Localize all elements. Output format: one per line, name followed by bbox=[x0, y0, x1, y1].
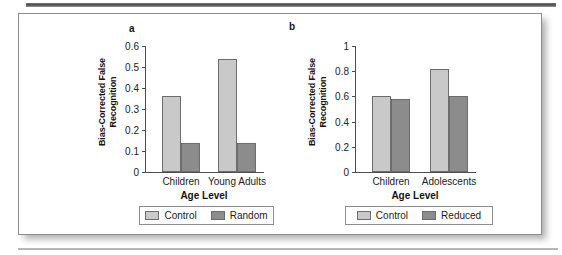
panel-a-legend-label-control: Control bbox=[164, 210, 196, 221]
panel-a-legend: Control Random bbox=[139, 206, 274, 225]
panel-a-tick-label-0: 0 bbox=[133, 167, 139, 178]
panel-b-legend-item-reduced: Reduced bbox=[422, 210, 481, 221]
panel-b-tick-0 bbox=[352, 172, 356, 173]
panel-b-bars bbox=[356, 46, 476, 172]
bar-b-adolescents-reduced bbox=[449, 96, 468, 172]
panel-a-tick-0 bbox=[142, 172, 146, 173]
panel-a-plot-area: 0.6 0.5 0.4 0.3 0.2 0.1 0 Ch bbox=[145, 46, 264, 173]
panel-a-legend-label-random: Random bbox=[230, 210, 268, 221]
panel-a-y-axis-title-line1: Bias-Corrected False bbox=[97, 58, 107, 146]
bar-b-children-reduced bbox=[391, 99, 410, 172]
legend-swatch-reduced-icon bbox=[422, 211, 436, 220]
panel-b-tick-label-0.4: 0.4 bbox=[335, 116, 349, 127]
panel-b: b Bias-Corrected False Recognition 1 0.8… bbox=[269, 14, 534, 234]
panel-b-legend: Control Reduced bbox=[345, 206, 493, 225]
bottom-rule bbox=[18, 248, 558, 250]
bar-b-children-control bbox=[372, 96, 391, 172]
figure-page: a Bias-Corrected False Recognition 0.6 0… bbox=[0, 0, 562, 255]
panel-b-xcat-children: Children bbox=[372, 176, 409, 187]
panel-a-xcat-children: Children bbox=[162, 176, 199, 187]
panel-b-tick-label-0: 0 bbox=[343, 167, 349, 178]
panel-a-bars bbox=[146, 46, 264, 172]
panel-a-letter: a bbox=[129, 24, 135, 34]
panel-b-x-axis-title: Age Level bbox=[391, 190, 438, 201]
panel-b-plot-area: 1 0.8 0.6 0.4 0.2 0 Children bbox=[355, 46, 476, 173]
legend-swatch-random-icon bbox=[211, 211, 225, 220]
bar-a-children-control bbox=[162, 96, 181, 172]
panel-a: a Bias-Corrected False Recognition 0.6 0… bbox=[41, 14, 291, 234]
panel-a-legend-item-control: Control bbox=[145, 210, 196, 221]
panel-a-y-axis-title: Bias-Corrected False Recognition bbox=[97, 38, 118, 166]
panels-container: a Bias-Corrected False Recognition 0.6 0… bbox=[19, 14, 541, 234]
panel-b-y-axis-title-line2: Recognition bbox=[318, 77, 328, 128]
bar-b-adolescents-control bbox=[430, 69, 449, 172]
panel-b-letter: b bbox=[289, 22, 295, 32]
panel-a-tick-label-0.2: 0.2 bbox=[125, 125, 139, 136]
panel-b-legend-label-reduced: Reduced bbox=[441, 210, 481, 221]
panel-b-tick-label-1: 1 bbox=[343, 41, 349, 52]
panel-a-tick-label-0.4: 0.4 bbox=[125, 83, 139, 94]
panel-a-xcat-young-adults: Young Adults bbox=[208, 176, 266, 187]
bar-a-youngadults-control bbox=[218, 59, 237, 172]
panel-b-y-axis-title: Bias-Corrected False Recognition bbox=[307, 38, 328, 166]
panel-a-legend-item-random: Random bbox=[211, 210, 268, 221]
legend-swatch-control-icon bbox=[357, 211, 371, 220]
legend-swatch-control-icon bbox=[145, 211, 159, 220]
panel-b-legend-item-control: Control bbox=[357, 210, 408, 221]
panel-b-tick-label-0.8: 0.8 bbox=[335, 66, 349, 77]
panel-a-x-axis-title: Age Level bbox=[180, 190, 227, 201]
panel-a-tick-label-0.1: 0.1 bbox=[125, 146, 139, 157]
panel-b-legend-label-control: Control bbox=[376, 210, 408, 221]
panel-b-tick-label-0.2: 0.2 bbox=[335, 141, 349, 152]
panel-a-tick-label-0.6: 0.6 bbox=[125, 41, 139, 52]
figure-frame: a Bias-Corrected False Recognition 0.6 0… bbox=[18, 13, 542, 235]
panel-b-xcat-adolescents: Adolescents bbox=[422, 176, 476, 187]
panel-b-tick-label-0.6: 0.6 bbox=[335, 91, 349, 102]
panel-b-y-axis-title-line1: Bias-Corrected False bbox=[307, 58, 317, 146]
bar-a-children-random bbox=[181, 143, 200, 172]
panel-a-tick-label-0.5: 0.5 bbox=[125, 62, 139, 73]
top-rule bbox=[26, 3, 556, 7]
bar-a-youngadults-random bbox=[237, 143, 256, 172]
panel-a-tick-label-0.3: 0.3 bbox=[125, 104, 139, 115]
panel-a-y-axis-title-line2: Recognition bbox=[108, 77, 118, 128]
